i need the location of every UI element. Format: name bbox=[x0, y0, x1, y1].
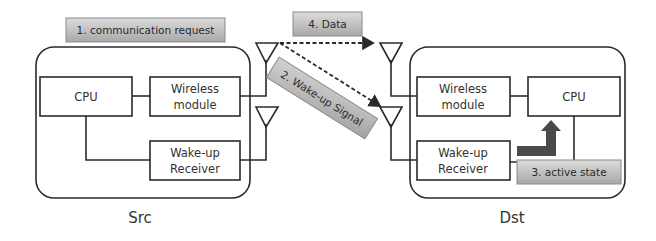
src-node: CPU Wireless module Wake-up Receiver Src bbox=[36, 43, 278, 227]
src-cpu-label: CPU bbox=[74, 90, 97, 104]
step2-label: 2. Wake-up Signal bbox=[279, 68, 365, 128]
dst-wakeup-label-2: Receiver bbox=[438, 162, 488, 176]
dst-title: Dst bbox=[499, 209, 524, 227]
dst-wakeup-label-1: Wake-up bbox=[438, 146, 488, 160]
dst-cpu-label: CPU bbox=[562, 90, 585, 104]
src-wireless-label-1: Wireless bbox=[171, 82, 219, 96]
step4-label: 4. Data bbox=[308, 18, 346, 30]
src-wireless-label-2: module bbox=[173, 98, 216, 112]
dst-wireless-label-2: module bbox=[441, 98, 484, 112]
dst-wireless-antenna-feed bbox=[391, 60, 417, 96]
src-title: Src bbox=[128, 209, 152, 227]
src-cpu-wakeup-link bbox=[86, 116, 150, 160]
dst-wakeup-antenna-feed bbox=[391, 124, 417, 160]
src-wakeup-antenna-icon bbox=[256, 107, 278, 127]
step1-label: 1. communication request bbox=[77, 24, 215, 36]
src-data-antenna-icon bbox=[256, 43, 278, 63]
src-wakeup-antenna-feed bbox=[240, 124, 266, 160]
dst-node: Wireless module CPU Wake-up Receiver 3. … bbox=[380, 43, 625, 227]
src-wireless-antenna-feed bbox=[240, 60, 266, 96]
step3-label: 3. active state bbox=[531, 166, 606, 178]
src-wakeup-label-1: Wake-up bbox=[170, 146, 220, 160]
dst-wireless-label-1: Wireless bbox=[439, 82, 487, 96]
step2-label-group: 2. Wake-up Signal bbox=[266, 57, 377, 139]
src-wakeup-label-2: Receiver bbox=[170, 162, 220, 176]
wakeup-radio-diagram: CPU Wireless module Wake-up Receiver Src… bbox=[0, 0, 656, 241]
active-state-arrow-icon bbox=[517, 120, 561, 156]
